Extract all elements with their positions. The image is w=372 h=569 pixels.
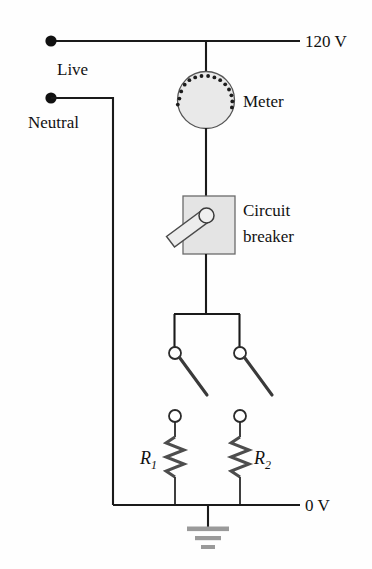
- switch-left-arm[interactable]: [180, 358, 208, 396]
- live-terminal-dot: [45, 35, 56, 46]
- circuit-breaker-label-line1: Circuit: [243, 201, 290, 220]
- supply-voltage-label: 120 V: [305, 32, 347, 51]
- ground-bar-2: [195, 536, 221, 540]
- resistor-1-label: R1: [139, 448, 157, 472]
- resistor-2-symbol: R: [253, 448, 265, 468]
- ground-voltage-label: 0 V: [305, 496, 330, 515]
- resistor-1-element: [166, 437, 184, 477]
- meter-dial-body: [178, 72, 235, 129]
- neutral-wire: [51, 98, 113, 505]
- resistor-2: [231, 422, 249, 505]
- resistor-2-label: R2: [253, 448, 271, 472]
- switch-right-arm[interactable]: [245, 358, 273, 396]
- circuit-breaker[interactable]: [167, 196, 236, 254]
- circuit-breaker-label-line2: breaker: [243, 227, 294, 246]
- ground-bar-1: [187, 527, 229, 532]
- circuit-svg: 120 V Live Neutral Meter Circuit breaker…: [0, 0, 372, 569]
- resistor-1: [166, 422, 184, 505]
- resistor-2-element: [231, 437, 249, 477]
- live-label: Live: [57, 60, 88, 79]
- switch-left-bottom-terminal: [169, 410, 181, 422]
- switch-right-bottom-terminal: [234, 410, 246, 422]
- circuit-diagram: 120 V Live Neutral Meter Circuit breaker…: [0, 0, 372, 569]
- resistor-1-symbol: R: [139, 448, 151, 468]
- switch-left[interactable]: [169, 347, 207, 422]
- meter: [176, 72, 235, 129]
- meter-label: Meter: [243, 92, 284, 111]
- resistor-1-subscript: 1: [151, 458, 157, 472]
- breaker-pivot: [199, 208, 214, 223]
- ground-symbol: [187, 505, 229, 549]
- switch-right[interactable]: [234, 347, 272, 422]
- ground-bar-3: [201, 545, 215, 549]
- neutral-label: Neutral: [28, 113, 79, 132]
- resistor-2-subscript: 2: [265, 458, 271, 472]
